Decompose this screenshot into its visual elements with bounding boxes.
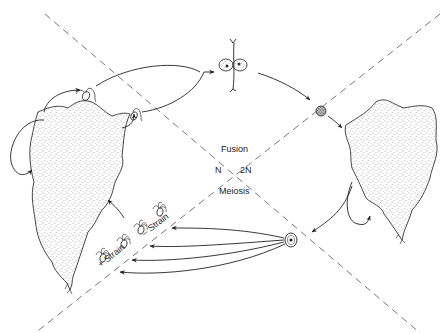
- haploid-thallus: [11, 101, 130, 294]
- label-fusion: Fusion: [221, 144, 248, 154]
- label-haploid: N: [215, 165, 222, 175]
- life-cycle-diagram: Fusion N 2N Meiosis + Strain – Strain: [0, 0, 448, 333]
- zoospores-to-haploid-arrow: [108, 200, 124, 218]
- gamete-icon: [130, 109, 142, 121]
- diploid-to-sporangium-arrow: [312, 186, 352, 232]
- gamete-to-fusion-arrow-2: [142, 72, 214, 112]
- fusion-to-zygote-arrow: [258, 73, 310, 100]
- gamete-to-fusion-arrow-1: [96, 65, 200, 86]
- diagram-canvas: [0, 0, 448, 333]
- diploid-thallus: [312, 100, 437, 244]
- zygote: [316, 106, 326, 116]
- label-diploid: 2N: [240, 165, 252, 175]
- zygote-to-diploid-arrow: [328, 116, 342, 128]
- sporangium-cell: [285, 233, 297, 247]
- label-meiosis: Meiosis: [219, 186, 250, 196]
- fusing-gametes: [219, 39, 247, 92]
